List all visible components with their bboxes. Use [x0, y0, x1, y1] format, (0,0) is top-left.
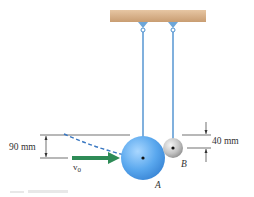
dimension-40mm — [182, 122, 211, 162]
figure-caption-faint — [10, 190, 68, 193]
dim-90mm-label: 90 mm — [9, 142, 36, 152]
pendulum-diagram: 90 mm 40 mm v0 A B — [0, 0, 254, 197]
hanger-b — [168, 22, 178, 32]
velocity-label: v0 — [73, 162, 82, 174]
hanger-a — [138, 22, 148, 32]
sphere-a-label: A — [154, 180, 161, 190]
dim-40mm-label: 40 mm — [212, 136, 239, 146]
sphere-a-center — [141, 156, 144, 159]
velocity-arrow — [72, 152, 120, 164]
ceiling-support — [110, 10, 206, 22]
dimension-90mm — [40, 135, 130, 158]
sphere-b-center — [171, 146, 174, 149]
sphere-b-label: B — [181, 159, 187, 169]
